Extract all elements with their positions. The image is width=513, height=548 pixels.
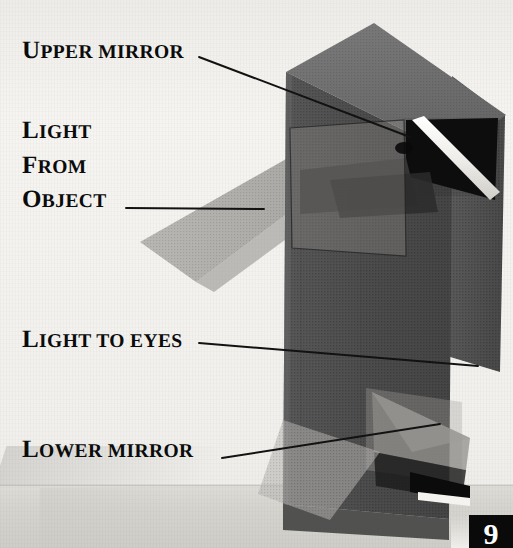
label-lower-mirror-text: OWER MIRROR bbox=[39, 441, 193, 462]
label-line2-initial: F bbox=[22, 152, 38, 179]
label-lower-mirror-initial: L bbox=[22, 436, 39, 463]
label-line1-text: IGHT bbox=[39, 122, 92, 143]
label-line2-text: ROM bbox=[38, 157, 87, 178]
figure-canvas: UPPER MIRROR LIGHT FROM OBJECT LIGHT TO … bbox=[0, 0, 513, 548]
label-light-from-object-line3: OBJECT bbox=[22, 187, 107, 213]
periscope-illustration bbox=[0, 0, 513, 548]
label-light-from-object: LIGHT FROM OBJECT bbox=[22, 118, 107, 222]
label-upper-mirror: UPPER MIRROR bbox=[22, 38, 184, 64]
label-upper-mirror-initial: U bbox=[22, 37, 40, 64]
page-number-badge: 9 bbox=[469, 515, 513, 548]
label-light-from-object-line1: LIGHT bbox=[22, 118, 107, 144]
label-lower-mirror: LOWER MIRROR bbox=[22, 437, 194, 463]
label-light-to-eyes-initial: L bbox=[22, 326, 39, 353]
label-light-to-eyes-text: IGHT TO EYES bbox=[39, 331, 183, 352]
label-line3-initial: O bbox=[22, 186, 42, 213]
label-light-from-object-line2: FROM bbox=[22, 153, 107, 179]
label-line3-text: BJECT bbox=[42, 191, 107, 212]
label-light-to-eyes: LIGHT TO EYES bbox=[22, 327, 183, 353]
page-number: 9 bbox=[484, 519, 499, 548]
label-line1-initial: L bbox=[22, 117, 39, 144]
label-upper-mirror-text: PPER MIRROR bbox=[40, 42, 184, 63]
leader-light-from-object bbox=[126, 208, 264, 209]
page-badge-notch bbox=[451, 515, 469, 548]
